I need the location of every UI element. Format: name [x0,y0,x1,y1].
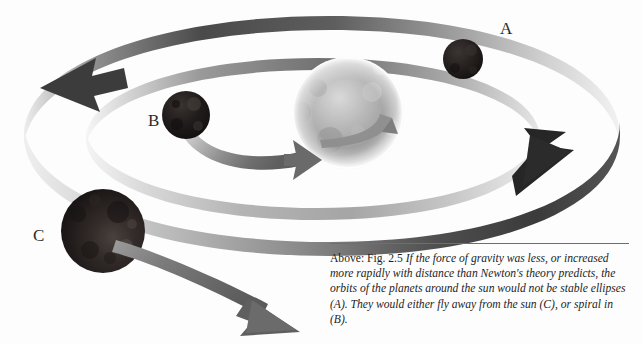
label-c: C [33,227,45,244]
caption-prefix: Above: Fig. 2.5 [330,252,406,265]
caption-rule [330,243,629,244]
figure-caption: Above: Fig. 2.5 If the force of gravity … [330,243,629,327]
label-a: A [500,20,513,37]
outer-orbit-arrowhead [512,128,574,196]
caption-text: Above: Fig. 2.5 If the force of gravity … [330,251,629,327]
label-b: B [148,112,160,129]
planet-c [61,189,145,273]
spiral-out-path-c [112,240,300,336]
planet-b [162,91,210,139]
orbit-figure: A B C Above: Fig. 2.5 If the force of gr… [0,0,643,344]
planet-a [443,39,483,79]
